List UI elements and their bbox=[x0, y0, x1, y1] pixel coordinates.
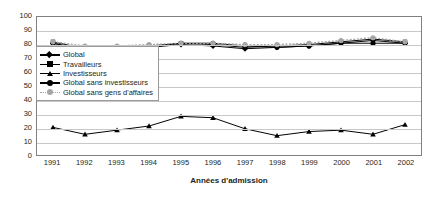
y-axis: 1009080706050403020100 bbox=[0, 0, 32, 160]
legend-label: Global bbox=[60, 50, 85, 59]
legend-label: Global sans investisseurs bbox=[60, 78, 148, 87]
y-axis-tick-label: 20 bbox=[6, 124, 32, 132]
y-axis-tick-label: 90 bbox=[6, 26, 32, 34]
y-axis-tick-label: 10 bbox=[6, 138, 32, 146]
legend-marker-circle-icon bbox=[40, 78, 60, 87]
legend-item-3[interactable]: Global sans investisseurs bbox=[40, 78, 153, 87]
y-axis-tick-label: 0 bbox=[6, 152, 32, 160]
legend-marker-square-icon bbox=[40, 60, 60, 69]
legend-marker-diamond-icon bbox=[40, 50, 60, 59]
y-axis-tick-label: 40 bbox=[6, 96, 32, 104]
data-point-marker bbox=[370, 35, 375, 40]
y-axis-tick-label: 50 bbox=[6, 82, 32, 90]
data-point-marker bbox=[338, 38, 343, 43]
legend-marker-triangle-icon bbox=[40, 69, 60, 78]
x-axis-tick-label: 2002 bbox=[386, 158, 426, 167]
legend-label: Global sans gens d'affaires bbox=[60, 88, 153, 97]
y-axis-tick-label: 80 bbox=[6, 40, 32, 48]
legend-item-1[interactable]: Travailleurs bbox=[40, 59, 153, 68]
gridline bbox=[37, 143, 421, 144]
legend-item-4[interactable]: Global sans gens d'affaires bbox=[40, 88, 153, 97]
legend-label: Investisseurs bbox=[60, 69, 107, 78]
line-chart: 1009080706050403020100 GlobalTravailleur… bbox=[0, 0, 434, 199]
series-line bbox=[53, 116, 405, 135]
gridline bbox=[37, 115, 421, 116]
legend-label: Travailleurs bbox=[60, 60, 101, 69]
y-axis-tick-label: 30 bbox=[6, 110, 32, 118]
y-axis-tick-label: 100 bbox=[6, 12, 32, 20]
y-axis-tick-label: 70 bbox=[6, 54, 32, 62]
x-axis-title: Années d'admission bbox=[36, 176, 422, 185]
legend-item-2[interactable]: Investisseurs bbox=[40, 69, 153, 78]
x-axis: 1991199219931994199519961997199819992000… bbox=[36, 158, 422, 172]
chart-legend: GlobalTravailleursInvestisseursGlobal sa… bbox=[36, 46, 159, 101]
y-axis-tick-label: 60 bbox=[6, 68, 32, 76]
gridline bbox=[37, 129, 421, 130]
legend-item-0[interactable]: Global bbox=[40, 50, 153, 59]
data-point-marker bbox=[402, 122, 408, 127]
gridline bbox=[37, 31, 421, 32]
series-investisseurs bbox=[50, 114, 408, 138]
legend-marker-circle-gray-icon bbox=[40, 88, 60, 97]
